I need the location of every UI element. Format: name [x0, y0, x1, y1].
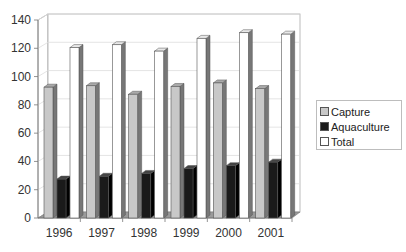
- bar-side: [121, 42, 125, 218]
- bar-capture-1997: [86, 86, 95, 218]
- bar-capture-2001: [256, 89, 265, 218]
- legend-item-capture: Capture: [320, 104, 401, 119]
- bar-side: [138, 91, 142, 218]
- chart-legend: Capture Aquaculture Total: [316, 100, 402, 150]
- legend-label: Capture: [331, 106, 370, 118]
- x-tick-label: 2000: [215, 226, 242, 240]
- y-tick-label: 120: [11, 41, 31, 55]
- bar-side: [66, 176, 70, 218]
- legend-swatch-total: [320, 137, 329, 146]
- bar-capture-1998: [129, 94, 138, 218]
- bar-aquaculture-1999: [184, 169, 193, 219]
- y-tick-label: 20: [18, 183, 32, 197]
- bar-aquaculture-1997: [99, 176, 108, 218]
- bar-total-1998: [155, 51, 164, 218]
- x-tick-label: 1997: [88, 226, 115, 240]
- bar-capture-1996: [44, 87, 53, 218]
- bar-side: [222, 80, 226, 218]
- bar-total-2001: [282, 34, 291, 218]
- bar-side: [248, 30, 252, 218]
- x-tick-label: 1999: [173, 226, 200, 240]
- bar-side: [235, 163, 239, 218]
- y-tick-label: 0: [24, 211, 31, 225]
- bar-side: [151, 170, 155, 218]
- bar-total-1996: [70, 48, 79, 218]
- y-tick-label: 40: [18, 154, 32, 168]
- legend-item-total: Total: [320, 134, 401, 149]
- bar-capture-1999: [171, 86, 180, 218]
- bar-side: [95, 83, 99, 218]
- x-tick-label: 1998: [130, 226, 157, 240]
- bar-side: [206, 35, 210, 218]
- bar-aquaculture-2001: [269, 162, 278, 218]
- legend-item-aquaculture: Aquaculture: [320, 119, 401, 134]
- legend-label: Aquaculture: [331, 121, 390, 133]
- bar-aquaculture-1998: [142, 173, 151, 218]
- bar-side: [278, 159, 282, 218]
- y-tick-label: 80: [18, 98, 32, 112]
- bar-total-1997: [112, 45, 121, 218]
- legend-swatch-aquaculture: [320, 122, 329, 131]
- legend-swatch-capture: [320, 107, 329, 116]
- bar-side: [79, 45, 83, 218]
- bar-total-2000: [239, 33, 248, 218]
- bar-total-1999: [197, 38, 206, 218]
- bar-side: [265, 86, 269, 218]
- bar-capture-2000: [213, 83, 222, 218]
- bar-side: [164, 48, 168, 218]
- y-tick-label: 100: [11, 70, 31, 84]
- bar-side: [291, 31, 295, 218]
- bar-side: [108, 173, 112, 218]
- bar-side: [193, 166, 197, 219]
- bar-aquaculture-2000: [226, 166, 235, 218]
- y-tick-label: 140: [11, 13, 31, 27]
- bar-side: [53, 84, 57, 218]
- x-tick-label: 2001: [257, 226, 284, 240]
- x-tick-label: 1996: [46, 226, 73, 240]
- legend-label: Total: [331, 136, 354, 148]
- bar-side: [180, 83, 184, 218]
- y-tick-label: 60: [18, 126, 32, 140]
- bar-aquaculture-1996: [57, 179, 66, 218]
